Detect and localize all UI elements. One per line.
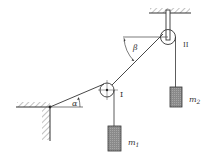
pulley-1 — [98, 80, 118, 100]
label-mass-1: m1 — [128, 138, 139, 148]
pulley-diagram: α β I II m1 m2 — [0, 0, 212, 165]
wall-support — [16, 102, 51, 141]
label-pulley-1: I — [120, 90, 123, 99]
label-mass-2: m2 — [189, 95, 201, 105]
rope-pulley-1-to-pulley-2 — [112, 34, 163, 85]
label-beta: β — [132, 43, 138, 52]
label-alpha: α — [72, 99, 78, 108]
mass-1-block — [108, 126, 121, 151]
label-mass-2-sub: 2 — [196, 98, 201, 105]
label-pulley-2: II — [183, 41, 189, 49]
mass-2-block — [170, 87, 182, 107]
pulley-2-hanger — [166, 10, 170, 40]
label-mass-1-sub: 1 — [136, 141, 140, 148]
